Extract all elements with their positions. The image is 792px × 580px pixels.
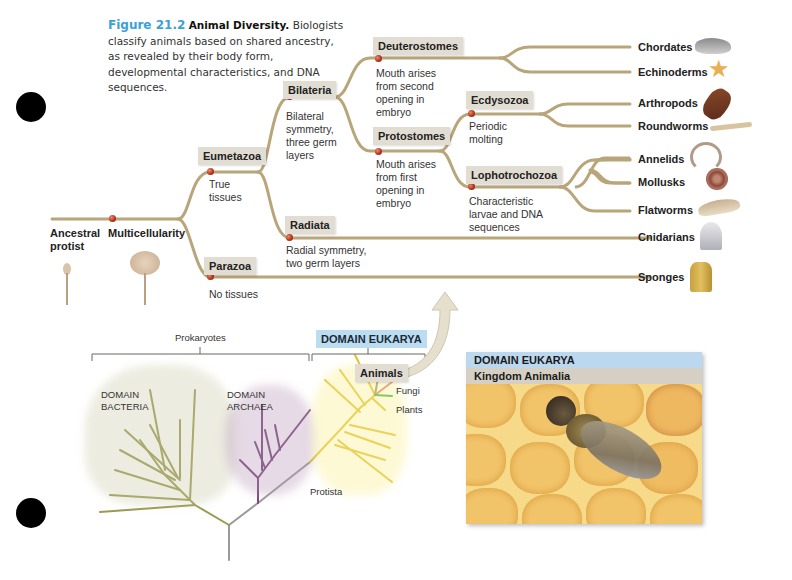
starfish-icon: ★ [708,58,730,80]
protist-illustration [60,255,74,305]
desc-line: embryo [376,106,436,119]
desc-line: Mouth arises [376,158,436,171]
radiata-desc: Radial symmetry, two germ layers [286,244,366,270]
honeybee-photo [466,384,702,524]
clade-ecdysozoa: Ecdysozoa [466,91,533,109]
domain-bacteria-label: DOMAIN BACTERIA [101,389,149,413]
desc-line: from first [376,171,436,184]
sponge-icon [690,262,712,292]
multicellularity-label: Multicellularity [108,227,185,239]
desc-line: molting [469,133,507,146]
bilateria-desc: Bilateral symmetry, three germ layers [286,110,337,162]
colonial-protist-illustration [122,245,168,305]
node-radiata [286,234,293,241]
taxon-roundworms: Roundworms [638,120,708,132]
jellyfish-icon [700,222,722,250]
label-line: DOMAIN [101,389,149,401]
taxon-echinoderms: Echinoderms [638,66,708,78]
clade-lophotrochozoa: Lophotrochozoa [466,166,562,184]
node-multicellularity [109,215,116,222]
desc-line: sequences [469,221,543,234]
parazoa-desc: No tissues [209,288,258,301]
clade-eumetazoa: Eumetazoa [198,147,266,165]
taxon-arthropods: Arthropods [638,97,698,109]
panel-kingdom-header: Kingdom Animalia [466,368,702,384]
desc-line: Periodic [469,120,507,133]
domain-eukarya-badge: DOMAIN EUKARYA [316,330,427,348]
protista-label: Protista [310,486,342,498]
desc-line: Mouth arises [376,67,436,80]
taxon-flatworms: Flatworms [638,204,693,216]
label-line: ARCHAEA [227,401,273,413]
clade-bilateria: Bilateria [283,81,336,99]
desc-line: opening in [376,93,436,106]
desc-line: Bilateral [286,110,337,123]
plants-label: Plants [396,404,422,416]
node-lophotrochozoa [468,183,475,190]
animals-label: Animals [355,364,408,382]
desc-line: larvae and DNA [469,208,543,221]
taxon-mollusks: Mollusks [638,176,685,188]
protostomes-desc: Mouth arises from first opening in embry… [376,158,436,210]
lophotrochozoa-desc: Characteristic larvae and DNA sequences [469,195,543,234]
clade-deuterostomes: Deuterostomes [373,37,463,55]
desc-line: three germ [286,136,337,149]
node-ecdysozoa [468,110,475,117]
node-deuterostomes [375,55,382,62]
desc-line: embryo [376,197,436,210]
fungi-label: Fungi [396,385,420,397]
panel-domain-header: DOMAIN EUKARYA [466,352,702,368]
node-eumetazoa [207,168,214,175]
label-line: BACTERIA [101,401,149,413]
desc-line: layers [286,149,337,162]
label-line: DOMAIN [227,389,273,401]
eumetazoa-desc: True tissues [209,178,242,204]
root-label-line1: Ancestral [50,227,100,240]
desc-line: two germ layers [286,257,366,270]
root-label: Ancestral protist [50,227,100,253]
taxon-sponges: Sponges [638,271,684,283]
deuterostomes-desc: Mouth arises from second opening in embr… [376,67,436,119]
taxon-annelids: Annelids [638,153,684,165]
desc-line: from second [376,80,436,93]
clade-protostomes: Protostomes [373,127,450,145]
clade-radiata: Radiata [285,216,335,234]
prokaryotes-label: Prokaryotes [175,332,226,344]
taxon-chordates: Chordates [638,41,692,53]
desc-line: symmetry, [286,123,337,136]
taxon-cnidarians: Cnidarians [638,231,695,243]
domain-archaea-label: DOMAIN ARCHAEA [227,389,273,413]
shark-icon [695,38,731,54]
bacteria-blob [85,365,235,505]
eukarya-blob [312,365,407,495]
desc-line: tissues [209,191,242,204]
desc-line: Characteristic [469,195,543,208]
ecdysozoa-desc: Periodic molting [469,120,507,146]
desc-line: Radial symmetry, [286,244,366,257]
node-protostomes [375,148,382,155]
snail-icon [706,168,728,190]
kingdom-animalia-panel: DOMAIN EUKARYA Kingdom Animalia [466,352,702,524]
clade-parazoa: Parazoa [204,257,256,275]
root-label-line2: protist [50,240,100,253]
desc-line: True [209,178,242,191]
desc-line: opening in [376,184,436,197]
